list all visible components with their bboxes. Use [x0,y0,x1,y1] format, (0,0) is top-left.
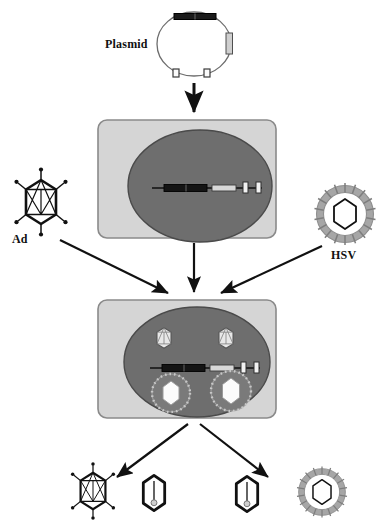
cell-bottom [98,300,276,418]
arrow-ad-to-cell [60,240,168,293]
arrow-cell-to-output-left [117,424,188,477]
dna-marker-1 [241,362,246,373]
plasmid-marker-left [173,69,179,77]
plasmid-circle [157,12,231,76]
ad-capsid-intracellular-1 [157,328,171,349]
dna-marker-1 [243,182,248,193]
hsv-virion-icon [315,183,376,245]
dna-marker-2 [254,362,259,373]
cell-top [98,120,276,242]
plasmid-marker-right [204,69,210,77]
plasmid-figure [157,12,233,77]
ad-virion-icon [14,167,67,236]
hsv-label: HSV [331,248,356,263]
ad-capsid-intracellular-2 [219,328,233,349]
dna-light-segment [212,185,236,191]
hsv-particle-intracellular-1 [152,374,190,412]
plasmid-gray-bar [226,33,233,54]
dna-dark-segment [164,185,207,192]
arrow-hsv-to-cell [221,246,322,293]
output-capsid-left [143,475,164,510]
output-hsv-virion [297,467,347,518]
hsv-particle-intracellular-2 [211,371,251,411]
figure-svg [0,0,388,530]
dna-marker-2 [256,182,261,193]
diagram-canvas: Plasmid Ad HSV [0,0,388,530]
output-capsid-right [236,476,257,511]
dna-dark-segment [162,365,205,372]
arrow-cell-to-output-right [200,424,268,477]
ad-label: Ad [12,232,28,247]
plasmid-label: Plasmid [105,37,148,52]
output-ad-virion [71,462,115,519]
